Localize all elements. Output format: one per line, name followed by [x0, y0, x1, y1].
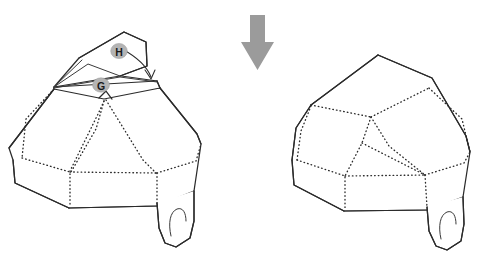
origami-diagram: G H [0, 0, 497, 258]
step-arrow-shape [241, 15, 274, 70]
diagram-canvas: G H [0, 0, 497, 258]
badge-h-label: H [115, 46, 123, 58]
right-figure-after-fold [292, 55, 470, 250]
badge-g-label: G [97, 80, 105, 92]
left-figure-before-fold: G H [9, 32, 201, 247]
badge-g: G [93, 78, 110, 92]
badge-h: H [111, 43, 128, 58]
step-arrow [241, 15, 274, 70]
left-body-outline [9, 88, 201, 208]
